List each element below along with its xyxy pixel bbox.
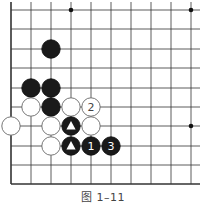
star-point-icon	[189, 124, 194, 129]
white-stone	[22, 98, 40, 116]
white-stone	[82, 117, 100, 135]
black-stone	[22, 79, 40, 97]
move-number: 3	[108, 140, 115, 153]
go-board: 213	[0, 0, 206, 190]
figure-caption: 图 1–11	[0, 188, 206, 204]
black-stone	[42, 40, 60, 58]
move-number: 2	[88, 101, 95, 114]
white-stone	[2, 117, 20, 135]
white-stone	[62, 98, 80, 116]
star-point-icon	[69, 8, 74, 13]
white-stone	[42, 137, 60, 155]
black-stone	[42, 98, 60, 116]
star-point-icon	[189, 8, 194, 13]
move-number: 1	[88, 140, 95, 153]
white-stone	[42, 117, 60, 135]
black-stone	[42, 79, 60, 97]
